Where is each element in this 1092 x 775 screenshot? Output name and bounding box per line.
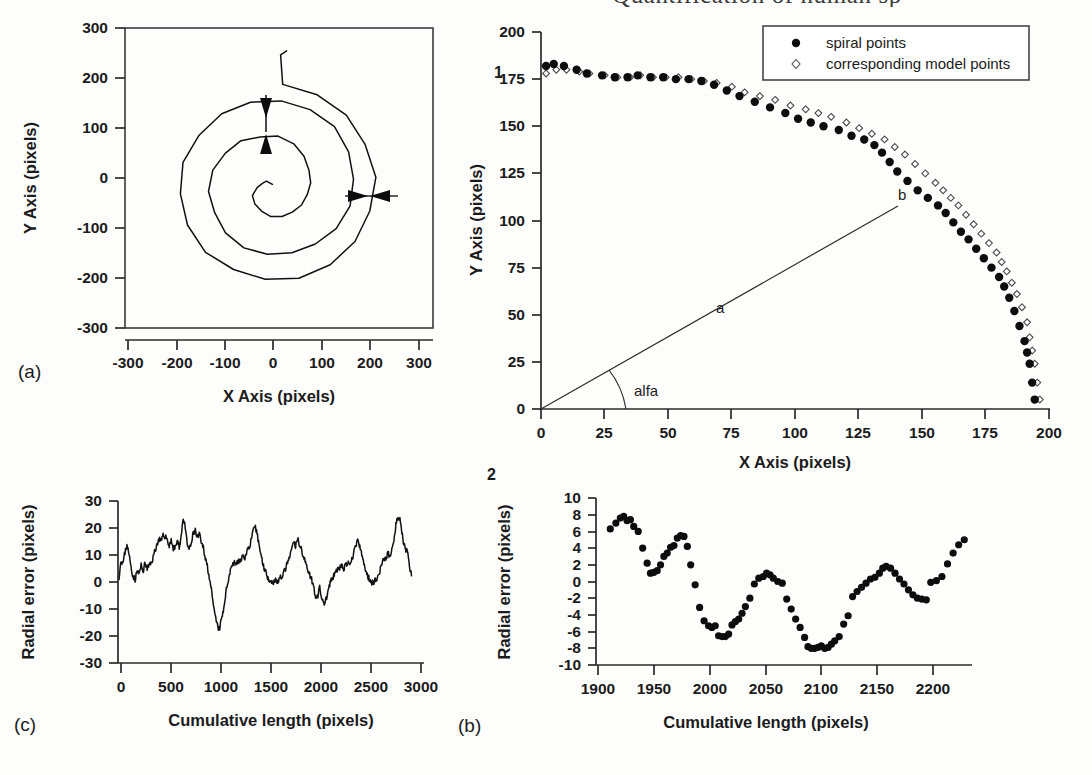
panel-b-ytick-10: -10 bbox=[559, 656, 581, 673]
model-points-group bbox=[543, 66, 1044, 403]
panel-b-svg: 2 10 8 6 4 bbox=[448, 460, 988, 775]
spiral-point-marker bbox=[1023, 348, 1031, 356]
panel-b: 2 10 8 6 4 bbox=[448, 460, 988, 775]
spiral-points-group bbox=[542, 60, 1039, 404]
radial-error-point-marker bbox=[788, 605, 795, 612]
spiral-point-marker bbox=[751, 98, 759, 106]
spiral-point-marker bbox=[819, 122, 827, 130]
panel-a-ytick-3: 0 bbox=[99, 169, 108, 186]
spiral-point-marker bbox=[646, 73, 654, 81]
panel-a-ytick-2: 100 bbox=[82, 119, 108, 136]
panel-a-xtick-4: 100 bbox=[309, 354, 335, 371]
radial-error-point-marker bbox=[961, 536, 968, 543]
spiral-point-marker bbox=[870, 141, 878, 149]
model-point-marker bbox=[932, 179, 939, 186]
panel-b-ytick-0: 10 bbox=[564, 489, 581, 506]
model-point-marker bbox=[993, 249, 1000, 256]
panel-a-ytick-1: 200 bbox=[82, 69, 108, 86]
panel-c-ytick-0: 30 bbox=[85, 492, 102, 509]
radial-error-point-marker bbox=[687, 561, 694, 568]
panel-c-xtick-2: 1000 bbox=[204, 678, 238, 695]
spiral-point-marker bbox=[1000, 282, 1008, 290]
panel-b-ytick-9: -8 bbox=[567, 639, 581, 656]
panel-c-ytick-1: 20 bbox=[85, 519, 102, 536]
model-point-marker bbox=[787, 102, 794, 109]
model-point-marker bbox=[978, 230, 985, 237]
radial-error-point-marker bbox=[657, 561, 664, 568]
spiral-point-marker bbox=[847, 131, 855, 139]
panel-b-number: 2 bbox=[487, 466, 496, 483]
model-point-marker bbox=[970, 221, 977, 228]
panel-c-svg: 30 20 10 0 -10 -20 -30 0 500 1000 1 bbox=[0, 478, 450, 775]
panel-1-ytick-4: 100 bbox=[499, 212, 525, 229]
radial-error-point-marker bbox=[836, 633, 843, 640]
angle-label-alfa: alfa bbox=[634, 382, 659, 399]
model-point-marker bbox=[856, 125, 863, 132]
panel-a-xtick-0: -300 bbox=[112, 354, 143, 371]
panel-c-xtick-0: 0 bbox=[117, 678, 126, 695]
panel-1-xtick-0: 0 bbox=[537, 424, 546, 441]
panel-b-ytick-7: -4 bbox=[567, 606, 581, 623]
radial-error-point-marker bbox=[696, 604, 703, 611]
panel-c-letter: (c) bbox=[14, 714, 36, 735]
radial-error-point-marker bbox=[684, 543, 691, 550]
radial-error-point-marker bbox=[627, 516, 634, 523]
spiral-point-marker bbox=[710, 81, 718, 89]
panel-c-xtick-1: 500 bbox=[158, 678, 184, 695]
model-point-marker bbox=[843, 119, 850, 126]
panel-a-y-axis: 300 200 100 0 -100 -200 -300 bbox=[77, 19, 125, 336]
panel-1-xtick-3: 75 bbox=[722, 424, 740, 441]
spiral-point-marker bbox=[893, 167, 901, 175]
radial-error-point-marker bbox=[639, 545, 646, 552]
model-point-marker bbox=[986, 240, 993, 247]
radial-error-point-marker bbox=[712, 622, 719, 629]
panel-a-plot-frame bbox=[125, 28, 433, 328]
panel-c-ytick-5: -20 bbox=[80, 627, 102, 644]
spiral-point-marker bbox=[550, 60, 558, 68]
radial-error-point-marker bbox=[607, 525, 614, 532]
radial-error-point-marker bbox=[746, 595, 753, 602]
spiral-point-marker bbox=[1015, 322, 1023, 330]
model-point-marker bbox=[902, 151, 909, 158]
model-point-marker bbox=[1003, 268, 1010, 275]
spiral-point-marker bbox=[583, 69, 591, 77]
model-point-marker bbox=[815, 110, 822, 117]
panel-c-x-axis: 0 500 1000 1500 2000 2500 3000 bbox=[117, 663, 439, 695]
radial-error-point-marker bbox=[900, 580, 907, 587]
panel-a-xtick-2: -100 bbox=[209, 354, 240, 371]
panel-b-ytick-1: 8 bbox=[572, 506, 581, 523]
panel-1-xtick-6: 150 bbox=[909, 424, 935, 441]
radial-error-point-marker bbox=[783, 595, 790, 602]
panel-1-ytick-6: 50 bbox=[508, 306, 525, 323]
radial-error-point-marker bbox=[845, 612, 852, 619]
spiral-point-marker bbox=[542, 62, 550, 70]
spiral-point-marker bbox=[684, 75, 692, 83]
spiral-point-marker bbox=[835, 126, 843, 134]
panel-c-ytick-3: 0 bbox=[93, 573, 102, 590]
model-point-marker bbox=[1024, 319, 1031, 326]
spiral-point-marker bbox=[560, 62, 568, 70]
radial-error-point-marker bbox=[955, 541, 962, 548]
spiral-point-marker bbox=[980, 254, 988, 262]
model-point-marker bbox=[922, 170, 929, 177]
spiral-point-marker bbox=[1020, 337, 1028, 345]
top-gap-arrow bbox=[260, 95, 272, 154]
panel-a-svg: 300 200 100 0 -100 -200 -300 -300 -200 bbox=[0, 10, 450, 430]
spiral-point-marker bbox=[1025, 360, 1033, 368]
panel-b-xlabel: Cumulative length (pixels) bbox=[663, 713, 868, 731]
panel-c: 30 20 10 0 -10 -20 -30 0 500 1000 1 bbox=[0, 478, 450, 775]
panel-a-ytick-5: -200 bbox=[77, 269, 108, 286]
spiral-point-marker bbox=[924, 194, 932, 202]
panel-1-xtick-2: 50 bbox=[659, 424, 676, 441]
panel-1-ylabel: Y Axis (pixels) bbox=[467, 164, 485, 276]
radial-error-point-marker bbox=[891, 570, 898, 577]
panel-1-xtick-7: 175 bbox=[972, 424, 998, 441]
radial-error-point-marker bbox=[635, 528, 642, 535]
panel-1-legend[interactable]: spiral points corresponding model points bbox=[763, 26, 1029, 80]
panel-b-ytick-6: -2 bbox=[567, 589, 581, 606]
panel-a: 300 200 100 0 -100 -200 -300 -300 -200 bbox=[0, 10, 450, 430]
panel-a-xtick-5: 200 bbox=[357, 354, 383, 371]
radius-label-a: a bbox=[716, 299, 725, 316]
radial-error-point-marker bbox=[644, 560, 651, 567]
panel-a-xtick-1: -200 bbox=[161, 354, 192, 371]
